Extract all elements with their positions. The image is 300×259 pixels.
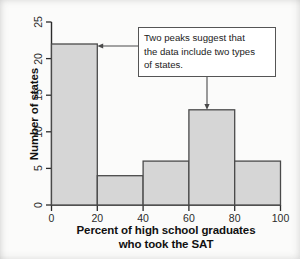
annotation-line-3: of states. — [144, 58, 274, 72]
y-axis-ticks — [46, 22, 52, 205]
x-tick-label-40: 40 — [133, 212, 153, 224]
annotation-callout-text: Two peaks suggest that the data include … — [144, 31, 274, 72]
x-axis-title-line2: who took the SAT — [50, 238, 282, 252]
annotation-line-1: Two peaks suggest that — [144, 31, 274, 45]
x-axis-title-line1: Percent of high school graduates — [50, 224, 282, 238]
x-tick-label-100: 100 — [271, 212, 291, 224]
x-tick-label-60: 60 — [179, 212, 199, 224]
bar-60-80 — [189, 110, 235, 205]
x-tick-label-80: 80 — [225, 212, 245, 224]
annotation-arrow-down — [204, 77, 209, 110]
histogram-figure: 0 5 10 15 20 25 0 20 40 60 80 100 Percen… — [0, 0, 300, 259]
annotation-callout-box: Two peaks suggest that the data include … — [138, 27, 276, 77]
bar-40-60 — [143, 161, 189, 205]
x-axis-title: Percent of high school graduates who too… — [50, 224, 282, 251]
x-tick-label-0: 0 — [42, 212, 62, 224]
bar-80-100 — [235, 161, 281, 205]
y-axis-title: Number of states — [28, 54, 40, 174]
y-tick-label-25: 25 — [32, 10, 44, 34]
bar-0-20 — [52, 44, 98, 205]
annotation-line-2: the data include two types — [144, 45, 274, 59]
x-axis-ticks — [52, 205, 281, 211]
bar-20-40 — [97, 176, 143, 205]
x-tick-label-20: 20 — [87, 212, 107, 224]
annotation-arrow-left — [97, 43, 138, 48]
